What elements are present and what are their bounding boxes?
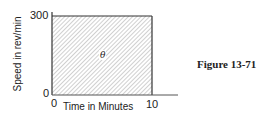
theta-label: θ bbox=[99, 50, 106, 60]
figure-caption: Figure 13-71 bbox=[197, 58, 256, 70]
x-tick-10: 10 bbox=[146, 99, 158, 110]
y-axis-label: Speed in rev/min bbox=[12, 14, 24, 94]
y-tick-0: 0 bbox=[43, 88, 49, 99]
x-axis-label: Time in Minutes bbox=[63, 101, 133, 112]
x-tick-0: 0 bbox=[51, 98, 57, 109]
y-tick-300: 300 bbox=[30, 10, 48, 21]
